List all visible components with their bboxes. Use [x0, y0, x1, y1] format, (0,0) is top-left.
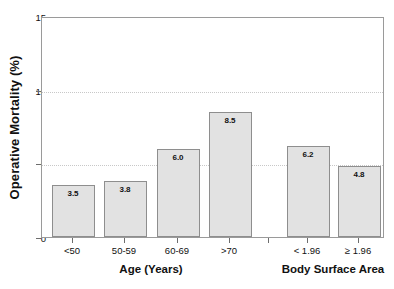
bar: 6.2 [287, 146, 330, 237]
x-tick-label: 50-59 [112, 245, 136, 256]
bar: 3.8 [104, 181, 147, 237]
x-tick-mark [72, 238, 73, 243]
bar: 6.0 [157, 149, 200, 237]
x-tick-mark [177, 238, 178, 243]
y-tick-mark-0 [36, 238, 41, 239]
bar: 8.5 [209, 112, 252, 237]
bar-value-label: 6.0 [158, 153, 199, 162]
gridline-10 [42, 92, 383, 93]
chart-figure: Operative Mortality (%) 151050 3.53.86.0… [0, 0, 394, 289]
bar-value-label: 3.5 [53, 189, 94, 198]
bar: 3.5 [52, 185, 95, 237]
group-title: Age (Years) [119, 263, 182, 275]
x-tick-label: <50 [64, 245, 80, 256]
y-axis-title: Operative Mortality (%) [7, 28, 22, 228]
bar-value-label: 3.8 [105, 185, 146, 194]
group-title: Body Surface Area [282, 263, 384, 275]
x-tick-mark [358, 238, 359, 243]
x-tick-label: >70 [221, 245, 237, 256]
x-tick-label: 60-69 [165, 245, 189, 256]
plot-area: 3.53.86.08.56.24.8 [41, 17, 384, 238]
bar-value-label: 6.2 [288, 150, 329, 159]
x-tick-label: < 1.96 [294, 245, 321, 256]
bar-value-label: 4.8 [339, 170, 380, 179]
x-tick-mark [307, 238, 308, 243]
x-tick-mark [268, 238, 269, 243]
bar-value-label: 8.5 [210, 116, 251, 125]
x-tick-mark [124, 238, 125, 243]
bar: 4.8 [338, 166, 381, 237]
x-tick-label: ≥ 1.96 [345, 245, 371, 256]
x-tick-mark [229, 238, 230, 243]
